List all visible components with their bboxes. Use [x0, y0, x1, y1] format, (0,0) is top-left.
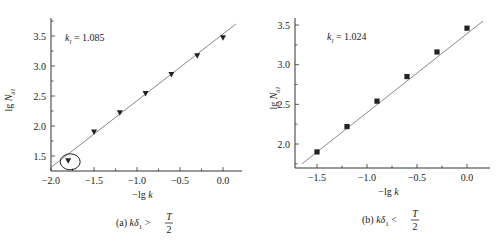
- y-tick-label: 3.5: [34, 31, 47, 42]
- caption-fraction-denominator: 2: [413, 221, 418, 232]
- fit-line: [51, 24, 236, 167]
- x-tick-label: 0.0: [461, 172, 474, 183]
- y-tick-label: 2.0: [278, 139, 291, 150]
- y-axis-label: lg Nδ1: [3, 88, 16, 111]
- square-marker: [374, 99, 379, 104]
- x-tick-label: −1.0: [358, 172, 376, 183]
- square-marker: [314, 149, 319, 154]
- y-tick-label: 2.5: [34, 91, 47, 102]
- fit-line: [302, 21, 483, 164]
- y-tick-label: 2.0: [34, 121, 47, 132]
- caption-fraction-numerator: T: [166, 211, 173, 222]
- y-tick-label: 3.5: [278, 20, 291, 31]
- square-marker: [464, 26, 469, 31]
- square-marker: [404, 74, 409, 79]
- x-axis-label: −lg k: [378, 186, 399, 197]
- x-axis-label: −lg k: [132, 189, 153, 200]
- y-tick-label: 2.5: [278, 99, 291, 110]
- x-tick-label: −1.5: [85, 175, 103, 186]
- triangle-marker: [168, 72, 174, 78]
- fit-coefficient-label: kl = 1.085: [65, 32, 105, 46]
- chart-a: 1.52.02.53.03.5−2.0−1.5−1.0−0.50.0kl = 1…: [3, 18, 242, 235]
- figure: 1.52.02.53.03.5−2.0−1.5−1.0−0.50.0kl = 1…: [0, 0, 504, 244]
- x-tick-label: 0.0: [217, 175, 230, 186]
- x-tick-label: −0.5: [408, 172, 426, 183]
- caption: (b) kδ1 <: [362, 214, 397, 228]
- triangle-marker: [65, 158, 71, 164]
- y-tick-label: 1.5: [34, 151, 47, 162]
- triangle-marker: [220, 35, 226, 41]
- triangle-marker: [117, 110, 123, 116]
- x-tick-label: −1.5: [308, 172, 326, 183]
- caption: (a) kδ1 >: [116, 217, 151, 231]
- caption-fraction-denominator: 2: [167, 224, 172, 235]
- chart-b: 2.02.53.03.5−1.5−1.0−0.50.0kl = 1.024lg …: [268, 18, 490, 232]
- x-tick-label: −2.0: [42, 175, 60, 186]
- square-marker: [434, 49, 439, 54]
- y-tick-label: 3.0: [34, 61, 47, 72]
- outlier-circle: [60, 154, 80, 170]
- x-tick-label: −0.5: [171, 175, 189, 186]
- square-marker: [344, 124, 349, 129]
- x-tick-label: −1.0: [128, 175, 146, 186]
- y-tick-label: 3.0: [278, 59, 291, 70]
- caption-fraction-numerator: T: [412, 208, 419, 219]
- fit-coefficient-label: kl = 1.024: [327, 31, 367, 45]
